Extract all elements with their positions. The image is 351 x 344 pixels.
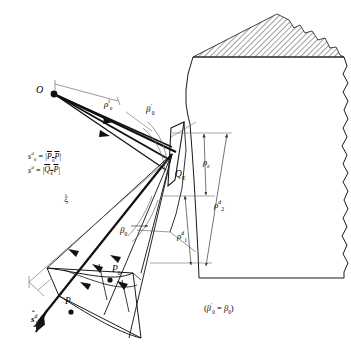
label-rho-e: ρe <box>203 158 210 169</box>
equation-line-2: sd = |QEP| <box>28 166 61 177</box>
point-p-dot <box>68 309 73 314</box>
eq2-bar-close: | <box>58 165 60 174</box>
q-e-base: Q <box>175 169 182 179</box>
equation-line-1: sd0 = |P0P| <box>28 152 61 163</box>
rho-1-d-sup: d <box>181 230 184 236</box>
eq2-equals: = <box>36 165 41 174</box>
beta-prime-0-sub: 0 <box>152 110 155 116</box>
label-p0: P0 <box>112 265 121 277</box>
hatched-wedge <box>193 14 344 57</box>
note-left-sub: 0 <box>212 309 215 315</box>
note-beta-equality: (β′0 = β0) <box>204 303 234 315</box>
p0-sub: 0 <box>118 270 121 276</box>
s-hat-d-base-group: ˆs <box>31 315 35 324</box>
q-e-sub: E <box>182 175 186 181</box>
label-rho-e-incident: ρie <box>104 99 112 111</box>
label-rho-2-d: ρd2 <box>214 200 224 212</box>
incident-ray-bundle <box>51 80 176 170</box>
rho-1-d-sub: 1 <box>184 237 187 243</box>
s-hat-d-hat: ˆ <box>31 311 34 319</box>
diffracted-ray-cone <box>33 154 172 338</box>
label-p: P <box>65 297 71 307</box>
figure-canvas: O ρie β′0 QE ρe ρd2 ρd1 β0 P0 P sd ˆs d <box>0 0 351 344</box>
equation-block: sd0 = |P0P| sd = |QEP| <box>28 152 61 179</box>
source-point-dot <box>51 91 58 98</box>
rho-2-d-sup: d <box>218 199 221 205</box>
label-rho-1-d: ρd1 <box>177 231 187 243</box>
eq2-overline-group: QEP <box>44 165 58 174</box>
note-paren-close: ) <box>231 303 234 313</box>
note-equals: = <box>217 303 222 313</box>
eq1-overline-group: P0P <box>47 152 60 161</box>
eq1-bar-close: | <box>60 152 62 161</box>
body-lower-left-face <box>190 124 199 278</box>
beta-0-sub: 0 <box>124 231 127 237</box>
label-s-hat-d: ˆs d <box>31 314 37 324</box>
rho-e-sub: e <box>207 163 209 169</box>
body-break-line <box>342 57 348 278</box>
label-beta-prime-0: β′0 <box>146 104 155 116</box>
rho-e-i-sub: e <box>110 105 112 111</box>
eq1-equals: = <box>38 152 43 161</box>
eq1-lhs-sub: 0 <box>34 157 37 162</box>
body-left-surface <box>186 57 193 124</box>
label-source-point: O <box>36 85 43 95</box>
label-q-e: QE <box>175 170 185 182</box>
eq2-lhs-sup: d <box>31 165 34 170</box>
label-beta-0: β0 <box>120 226 127 237</box>
beta-prime-0-prime: ′ <box>150 103 151 109</box>
point-p0-dot <box>107 277 112 282</box>
note-left-prime: ′ <box>211 302 212 308</box>
rho-e-i-sup: i <box>108 98 110 104</box>
eq1-lhs-sup: d <box>31 151 34 156</box>
rho-2-d-sub: 2 <box>221 206 224 212</box>
